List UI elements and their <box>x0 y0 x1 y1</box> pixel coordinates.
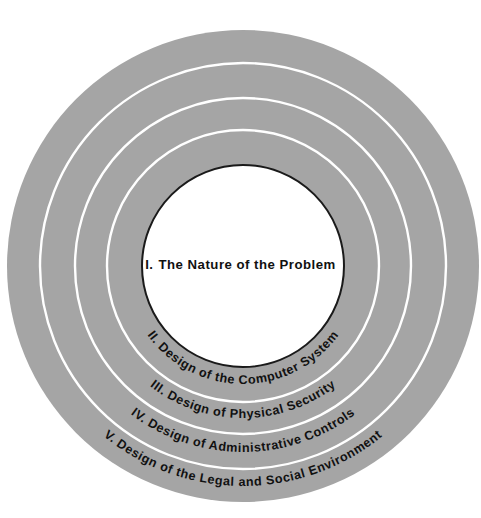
core-label: I.The Nature of the Problem <box>0 257 481 272</box>
core-label-text: The Nature of the Problem <box>158 257 335 272</box>
core-label-numeral: I. <box>145 257 153 272</box>
concentric-rings-diagram: II. Design of the Computer System III. D… <box>0 0 481 518</box>
